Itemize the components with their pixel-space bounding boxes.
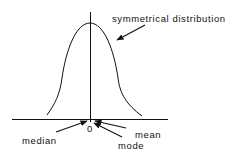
curve-label: symmetrical distribution xyxy=(112,13,226,24)
origin-label: 0 xyxy=(87,123,93,134)
bell-curve xyxy=(47,23,142,116)
symmetrical-distribution-diagram: symmetrical distribution 0 median mean m… xyxy=(0,0,250,158)
median-label: median xyxy=(22,135,57,146)
median-arrow xyxy=(56,121,87,132)
mean-arrow xyxy=(95,121,126,128)
mean-label: mean xyxy=(135,129,161,140)
mode-label: mode xyxy=(118,140,144,151)
mode-arrow xyxy=(94,123,122,137)
curve-label-arrow xyxy=(117,25,145,40)
